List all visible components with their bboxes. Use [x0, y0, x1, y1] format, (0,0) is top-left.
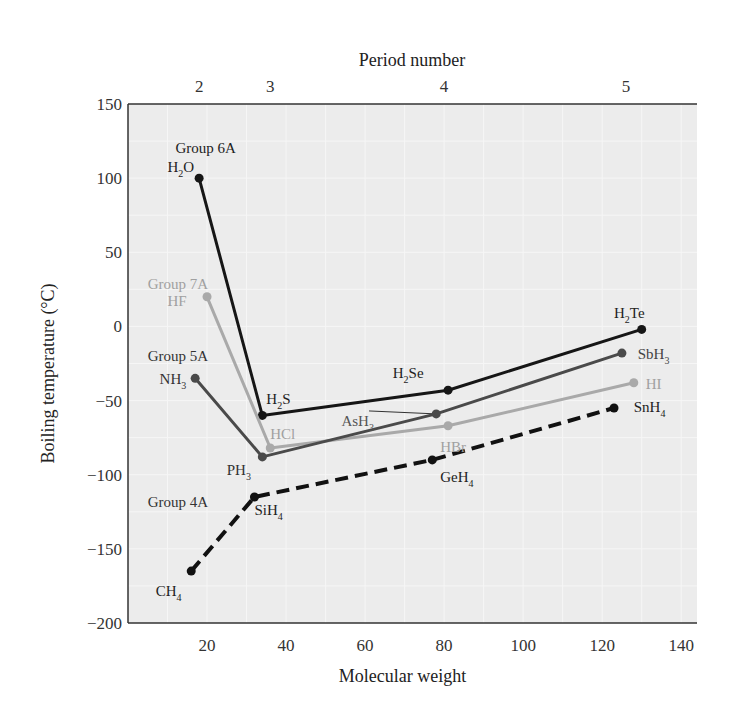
point-label: HI — [646, 376, 662, 392]
group-label: Group 7A — [148, 276, 209, 292]
data-point — [444, 421, 453, 430]
data-point — [266, 444, 275, 453]
data-point — [617, 349, 626, 358]
data-point — [250, 492, 259, 501]
x-tick-label: 100 — [510, 636, 536, 655]
x-tick-label: 80 — [436, 636, 453, 655]
point-label: HCl — [270, 426, 295, 442]
x-tick-label: 120 — [589, 636, 615, 655]
data-point — [258, 452, 267, 461]
data-point — [432, 409, 441, 418]
y-tick-label: −200 — [87, 614, 122, 633]
y-tick-label: 100 — [97, 169, 123, 188]
period-tick-label: 4 — [440, 77, 449, 96]
period-tick-label: 2 — [195, 77, 204, 96]
group-label: Group 6A — [175, 140, 236, 156]
y-tick-label: 0 — [114, 317, 123, 336]
boiling-point-chart: 20406080100120140150100500−50−100−150−20… — [0, 0, 735, 709]
data-point — [195, 174, 204, 183]
y-axis-title: Boiling temperature (°C) — [38, 283, 59, 463]
y-tick-label: −150 — [87, 540, 122, 559]
x-tick-label: 40 — [278, 636, 295, 655]
period-tick-label: 5 — [622, 77, 631, 96]
data-point — [610, 403, 619, 412]
period-tick-label: 3 — [266, 77, 275, 96]
x-tick-label: 140 — [668, 636, 694, 655]
group-label: Group 4A — [148, 494, 209, 510]
data-point — [428, 455, 437, 464]
data-point — [203, 292, 212, 301]
data-point — [444, 386, 453, 395]
y-tick-label: −50 — [95, 392, 122, 411]
point-label: HF — [168, 293, 187, 309]
x-tick-label: 60 — [357, 636, 374, 655]
data-point — [187, 567, 196, 576]
y-tick-label: 150 — [97, 95, 123, 114]
chart-canvas: 20406080100120140150100500−50−100−150−20… — [0, 0, 735, 709]
y-tick-label: 50 — [105, 243, 122, 262]
data-point — [191, 374, 200, 383]
x-axis-title: Molecular weight — [339, 666, 466, 686]
data-point — [637, 325, 646, 334]
point-label: HBr — [440, 439, 466, 455]
group-label: Group 5A — [148, 348, 209, 364]
data-point — [629, 378, 638, 387]
top-axis-title: Period number — [359, 50, 465, 70]
y-tick-label: −100 — [87, 466, 122, 485]
x-tick-label: 20 — [199, 636, 216, 655]
